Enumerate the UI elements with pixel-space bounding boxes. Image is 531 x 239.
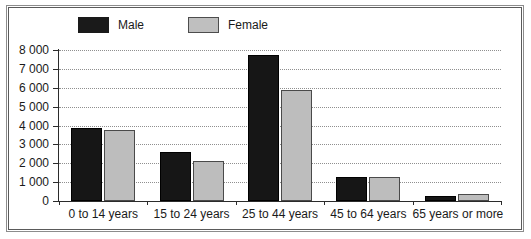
y-axis-tick <box>53 107 58 108</box>
x-axis-tick <box>501 201 502 205</box>
y-axis-tick-label: 7 000 <box>1 63 49 75</box>
x-axis-tick <box>147 201 148 205</box>
y-axis-labels: 01 0002 0003 0004 0005 0006 0007 0008 00… <box>0 0 49 239</box>
y-axis-tick <box>53 182 58 183</box>
legend-entry-male: Male <box>78 17 144 33</box>
bar-female <box>458 194 489 201</box>
bar-male <box>71 128 102 201</box>
legend-label-female: Female <box>228 19 268 32</box>
y-axis-tick-label: 2 000 <box>1 157 49 169</box>
black-square-swatch-icon <box>78 17 109 33</box>
chart-legend: Male Female <box>78 16 268 34</box>
y-axis-tick-label: 1 000 <box>1 176 49 188</box>
y-axis-tick-label: 0 <box>1 195 49 207</box>
bar-chart-figure: Male Female 01 0002 0003 0004 0005 0006 … <box>0 0 531 239</box>
bar-male <box>248 55 279 201</box>
bar-female <box>104 130 135 201</box>
bar-female <box>193 161 224 201</box>
y-axis-tick <box>53 88 58 89</box>
bar-male <box>425 196 456 201</box>
legend-label-male: Male <box>118 19 144 32</box>
x-axis-line <box>58 201 502 202</box>
x-axis-tick <box>413 201 414 205</box>
x-axis-category-label: 25 to 44 years <box>236 207 324 221</box>
x-axis-category-label: 15 to 24 years <box>147 207 235 221</box>
y-axis-tick-label: 6 000 <box>1 82 49 94</box>
y-axis-tick <box>53 50 58 51</box>
y-axis-tick-label: 3 000 <box>1 138 49 150</box>
bar-female <box>281 90 312 201</box>
legend-entry-female: Female <box>188 17 268 33</box>
gray-square-swatch-icon <box>188 17 219 33</box>
y-axis-tick-label: 8 000 <box>1 44 49 56</box>
y-axis-tick <box>53 201 58 202</box>
bar-female <box>369 177 400 201</box>
x-axis-tick <box>236 201 237 205</box>
y-axis-tick-label: 5 000 <box>1 101 49 113</box>
bar-male <box>160 152 191 201</box>
x-axis-tick <box>324 201 325 205</box>
x-axis-tick <box>59 201 60 205</box>
y-axis-tick-label: 4 000 <box>1 120 49 132</box>
bar-groups <box>59 50 501 201</box>
bar-male <box>336 177 367 201</box>
x-axis-category-label: 65 years or more <box>413 207 501 221</box>
x-axis-category-label: 0 to 14 years <box>59 207 147 221</box>
x-axis-category-label: 45 to 64 years <box>324 207 412 221</box>
y-axis-tick <box>53 163 58 164</box>
y-axis-tick <box>53 69 58 70</box>
y-axis-tick <box>53 144 58 145</box>
y-axis-tick <box>53 126 58 127</box>
